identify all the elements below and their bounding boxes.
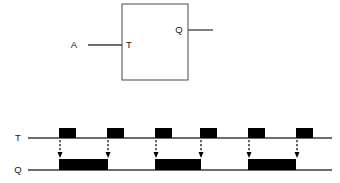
pulse-t-3 — [155, 128, 172, 138]
input-signal-label-a: A — [71, 39, 78, 50]
pulse-t-5 — [248, 128, 265, 138]
pulse-t-1 — [59, 128, 76, 138]
trigger-arrow-head-6 — [295, 152, 300, 158]
output-port-label-q: Q — [175, 24, 182, 35]
pulse-q-1 — [59, 159, 108, 170]
figure-root: A T Q T Q — [0, 0, 340, 183]
pulse-q-2 — [155, 159, 201, 170]
pulse-t-4 — [200, 128, 217, 138]
trigger-arrow-head-3 — [154, 152, 159, 158]
waveform-q — [28, 159, 332, 170]
input-port-label-t: T — [126, 39, 132, 50]
block-diagram-group: A T Q — [71, 4, 213, 80]
trigger-arrow-head-1 — [58, 152, 63, 158]
pulse-t-6 — [296, 128, 313, 138]
pulse-q-3 — [248, 159, 296, 170]
diagram-canvas: A T Q T Q — [0, 0, 340, 183]
waveform-label-t: T — [15, 132, 21, 143]
trigger-arrow-head-5 — [247, 152, 252, 158]
pulse-t-2 — [107, 128, 124, 138]
waveform-t — [28, 128, 332, 138]
trigger-arrow-head-4 — [199, 152, 204, 158]
trigger-arrows — [58, 140, 300, 158]
timing-diagram-group: T Q — [14, 128, 332, 175]
trigger-arrow-head-2 — [106, 152, 111, 158]
waveform-label-q: Q — [14, 164, 21, 175]
